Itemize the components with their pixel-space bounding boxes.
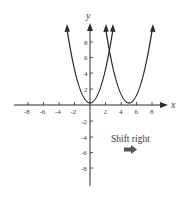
x-axis-arrow-icon [160,102,168,108]
x-tick-labels: -8 -6 -4 -2 2 4 6 8 [24,108,154,116]
curve-arrow-icon [110,24,116,32]
curve-arrow-icon [150,24,156,32]
right-arrow-icon [124,145,137,154]
y-tick-label: -4 [81,134,87,142]
y-axis: y [85,10,93,186]
y-tick-label: -8 [81,165,87,173]
parabola-shifted [103,24,155,103]
x-axis-label: x [170,99,176,110]
x-tick-label: 8 [150,108,154,116]
x-tick-label: -8 [24,108,30,116]
y-tick-label: 2 [84,86,88,94]
x-tick-label: -6 [40,108,46,116]
y-tick-label: -2 [81,118,87,126]
y-tick-label: 4 [84,70,88,78]
x-tick-label: 4 [119,108,123,116]
annotation-text: Shift right [111,134,150,144]
curve-arrow-icon [65,24,71,32]
x-tick-label: 6 [135,108,139,116]
shift-annotation: Shift right [111,134,150,154]
y-axis-label: y [85,10,91,21]
y-axis-arrow-icon [87,23,93,31]
graph-figure: x y -8 -6 -4 -2 2 4 6 8 8 [0,0,183,199]
curve-arrow-icon [103,24,109,32]
x-tick-label: 2 [104,108,108,116]
x-tick-label: -4 [55,108,61,116]
y-tick-label: 8 [84,39,88,47]
y-tick-label: -6 [81,149,87,157]
y-tick-label: 6 [84,54,88,62]
x-tick-label: -2 [71,108,77,116]
